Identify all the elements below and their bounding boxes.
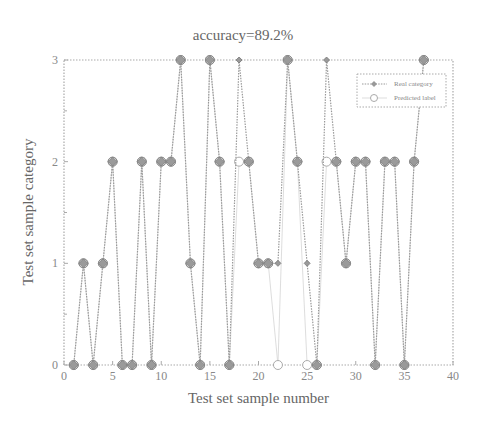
x-tick-label: 5 [110, 369, 116, 383]
x-tick-label: 40 [447, 369, 459, 383]
legend-predicted-icon [371, 95, 378, 102]
real-marker [236, 57, 242, 63]
real-marker [324, 57, 330, 63]
legend: Real categoryPredicted label [357, 74, 446, 107]
plot-area: 05101520253035400123 Real categoryPredic… [0, 0, 486, 429]
x-tick-label: 20 [253, 369, 265, 383]
x-tick-label: 25 [301, 369, 313, 383]
y-tick-label: 2 [52, 155, 58, 169]
x-tick-label: 10 [155, 369, 167, 383]
x-tick-label: 0 [61, 369, 67, 383]
x-tick-label: 35 [398, 369, 410, 383]
predicted-marker [273, 361, 282, 370]
real-marker [275, 260, 281, 266]
legend-real-label: Real category [394, 80, 433, 88]
legend-box [357, 74, 446, 107]
y-tick-label: 0 [52, 358, 58, 372]
predicted-marker [235, 157, 244, 166]
real-marker [304, 260, 310, 266]
predicted-marker [303, 361, 312, 370]
x-tick-label: 15 [204, 369, 216, 383]
y-tick-label: 1 [52, 256, 58, 270]
y-tick-label: 3 [52, 53, 58, 67]
x-tick-label: 30 [350, 369, 362, 383]
legend-predicted-label: Predicted label [394, 94, 436, 102]
